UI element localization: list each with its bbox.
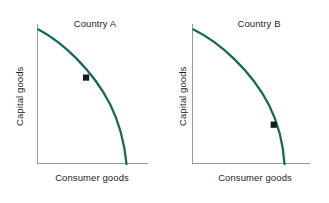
chart-panel-country-a: Country A Consumer goods Capital goods (0, 0, 164, 203)
plot-area-country-a (0, 0, 164, 203)
ppf-curve-country-a (39, 30, 127, 165)
ppf-curve-country-b (194, 30, 285, 165)
chart-panel-country-b: Country B Consumer goods Capital goods (165, 0, 329, 203)
ppf-comparison-figure: Country A Consumer goods Capital goods C… (0, 0, 329, 203)
production-point-marker-b (271, 122, 277, 128)
plot-area-country-b (165, 0, 329, 203)
production-point-marker-a (83, 75, 89, 81)
